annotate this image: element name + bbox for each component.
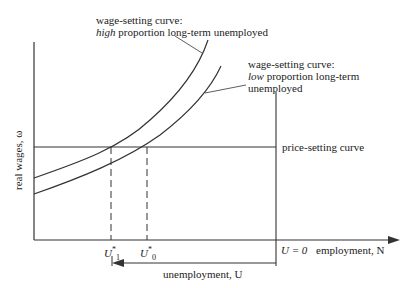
leader-high (175, 36, 202, 53)
wage-setting-curve-high (34, 40, 208, 178)
u1-sub: 1 (116, 253, 120, 262)
ws-low-rest: proportion long-term (264, 70, 359, 82)
ws-low-line1: wage-setting curve: (248, 58, 359, 70)
leader-low (205, 85, 246, 93)
u-zero-label: U = 0 (281, 244, 307, 256)
ws-low-line3: unemployed (248, 82, 359, 94)
u0-sub: 0 (152, 253, 156, 262)
u1-symbol: U (104, 247, 112, 259)
ws-low-label: wage-setting curve: low proportion long-… (248, 58, 359, 94)
ws-low-line2: low proportion long-term (248, 70, 359, 82)
ws-high-line1: wage-setting curve: (96, 14, 268, 26)
ws-low-emph: low (248, 70, 264, 82)
ws-high-emph: high (96, 26, 116, 38)
u-zero-text: U = 0 (281, 244, 307, 256)
x-axis-label: employment, N (316, 244, 384, 256)
y-axis-label: real wages, ω (12, 131, 24, 190)
ws-high-label: wage-setting curve: high proportion long… (96, 14, 268, 38)
u1-label: U*1 (104, 244, 120, 264)
ws-high-line2: high proportion long-term unemployed (96, 26, 268, 38)
x-axis-arrowhead (388, 236, 400, 244)
ws-high-rest: proportion long-term unemployed (116, 26, 268, 38)
price-setting-label: price-setting curve (282, 141, 364, 153)
unemployment-label: unemployment, U (163, 268, 242, 280)
u0-label: U*0 (140, 244, 156, 264)
u0-symbol: U (140, 247, 148, 259)
wage-setting-curve-low (34, 66, 221, 194)
